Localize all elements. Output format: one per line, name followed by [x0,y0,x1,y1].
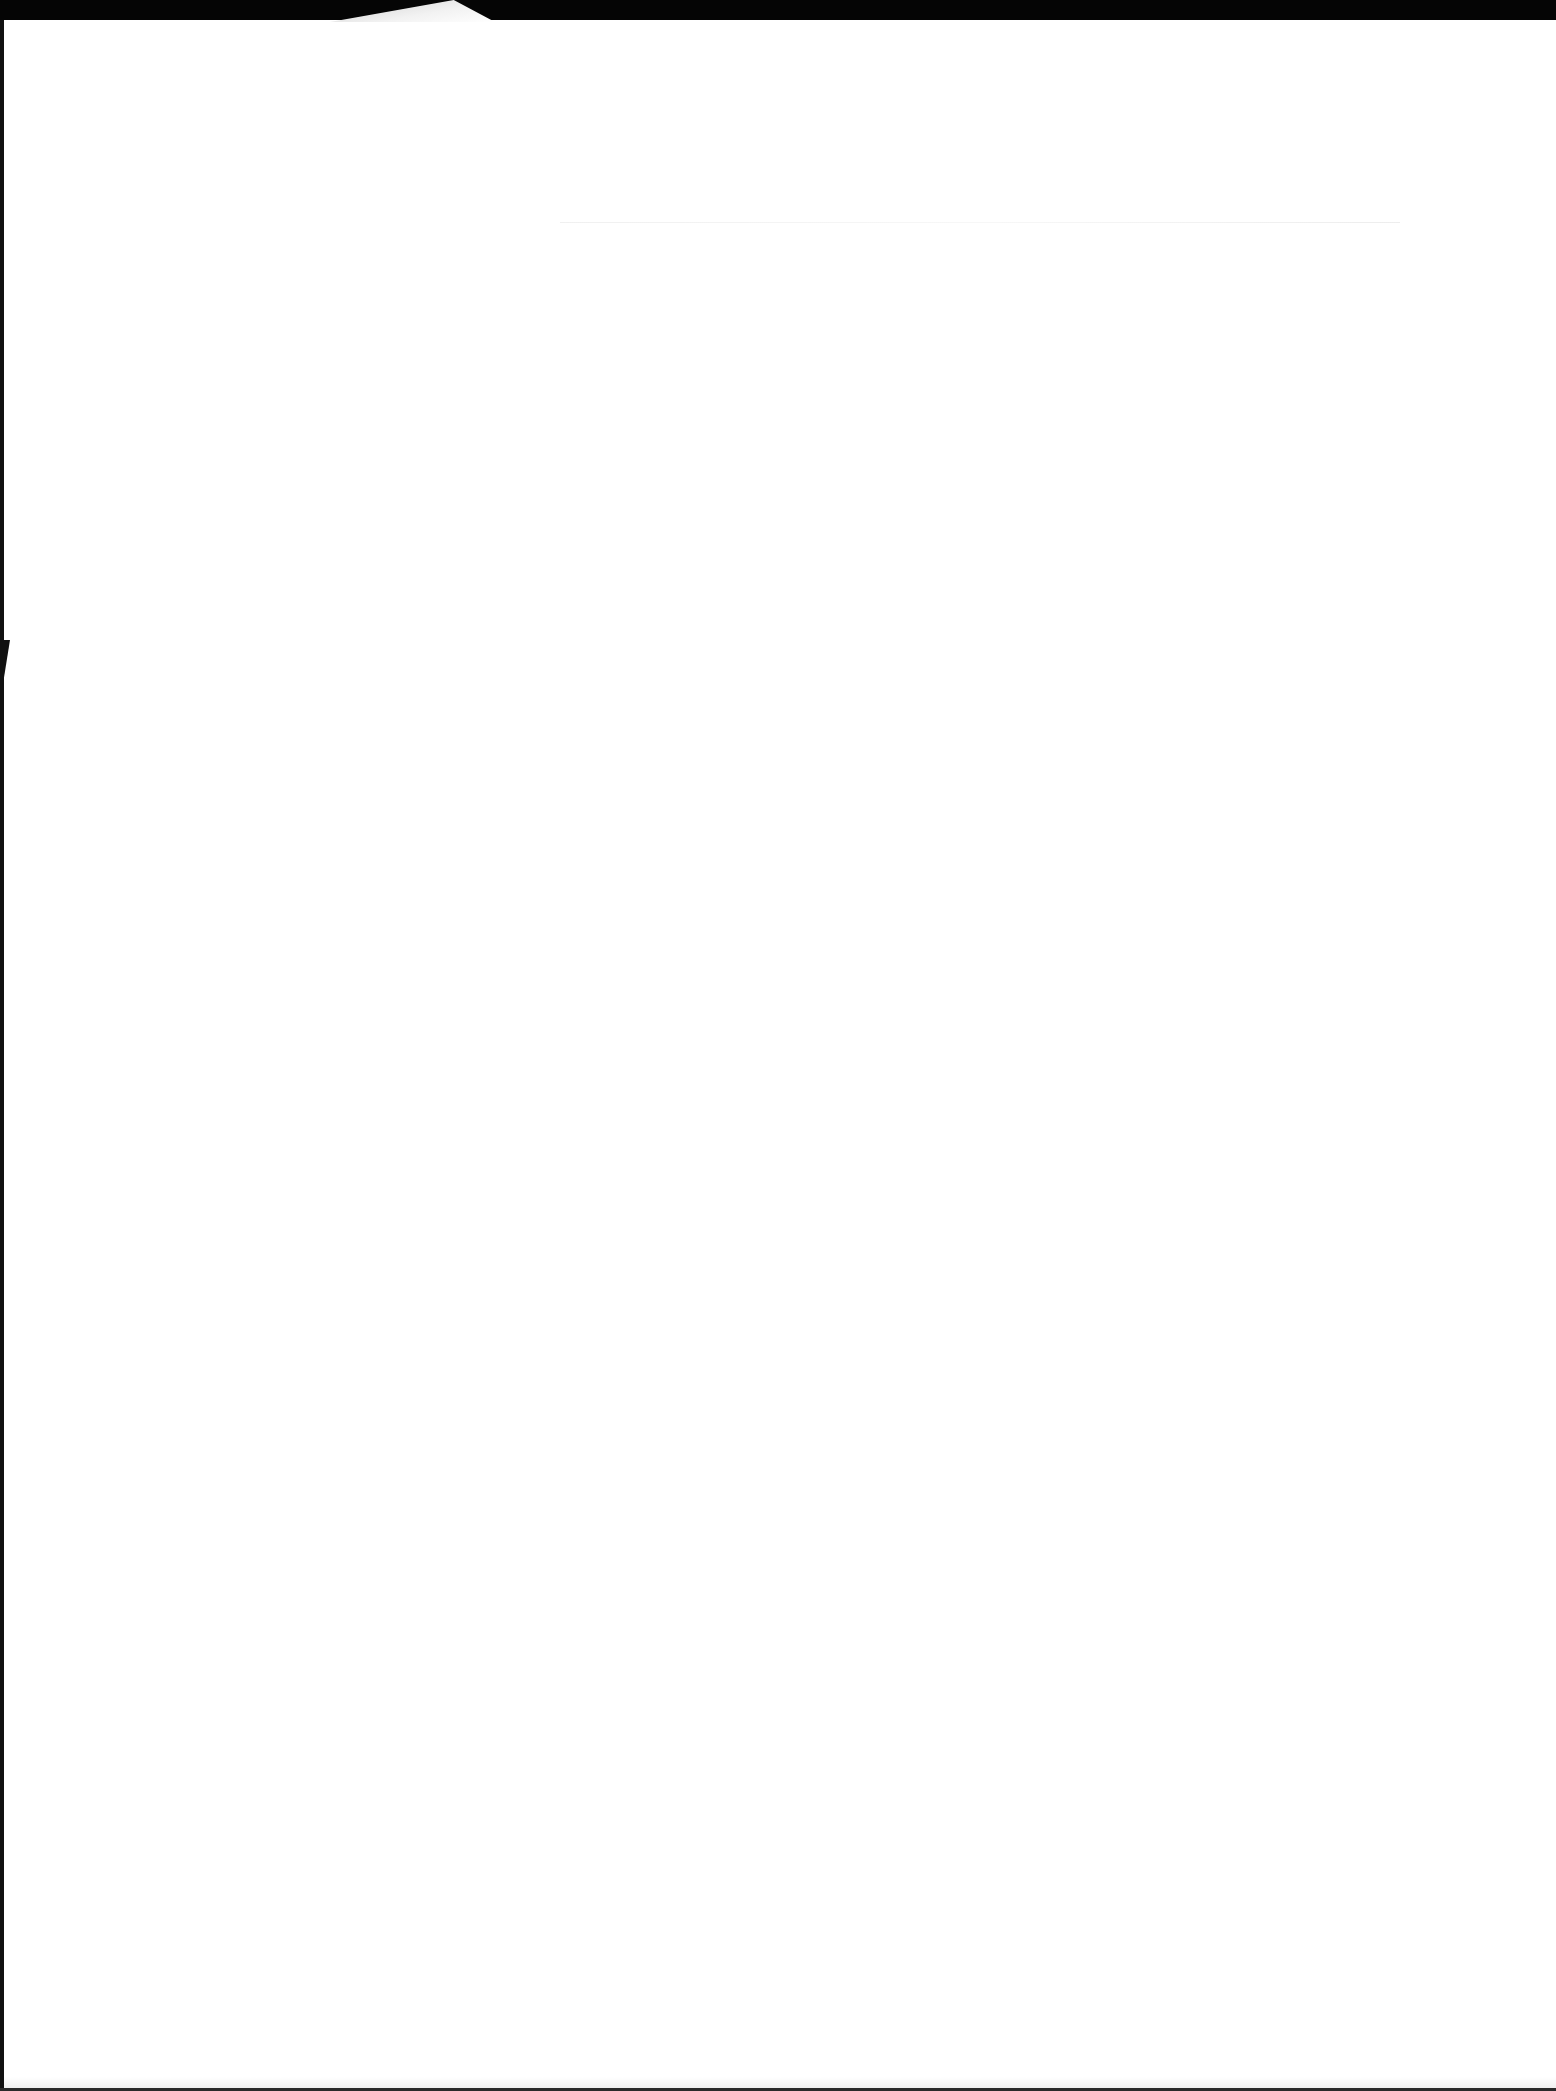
scan-top-border [0,0,1556,20]
bleed-through-line [560,222,1400,223]
blank-paper-page [4,20,1556,2091]
scan-left-border [0,20,4,2091]
